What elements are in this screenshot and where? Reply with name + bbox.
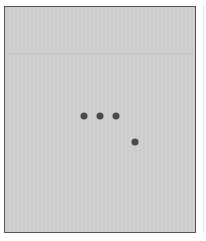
dot-icon (81, 113, 88, 120)
scrollbar-track[interactable] (203, 6, 204, 233)
dot-icon (97, 113, 104, 120)
dot-icon (113, 113, 120, 120)
content-panel (4, 6, 196, 233)
header-divider (5, 53, 195, 54)
dot-icon (132, 139, 139, 146)
